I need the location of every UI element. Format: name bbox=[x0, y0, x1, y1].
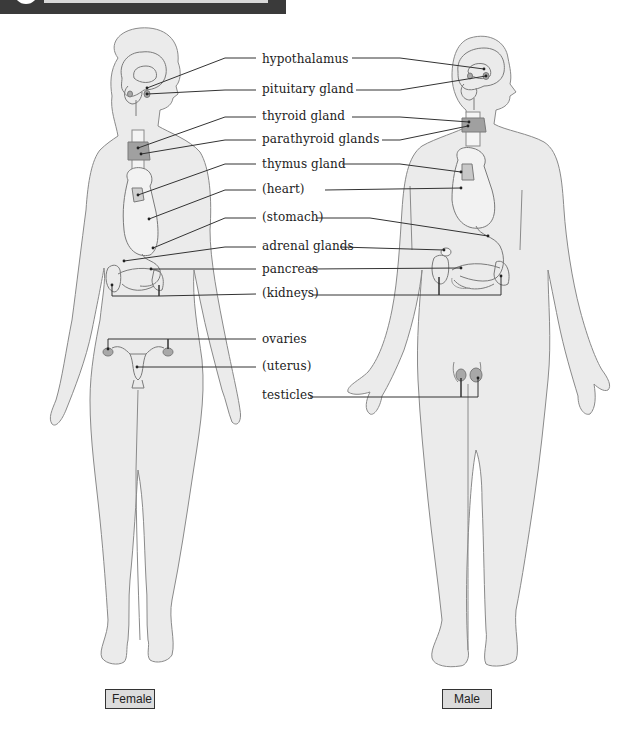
leader-dot bbox=[467, 125, 470, 128]
label-heart: (heart) bbox=[262, 182, 305, 196]
female-ovary-right bbox=[163, 348, 173, 356]
male-testicle-right bbox=[470, 368, 482, 382]
leader-dot bbox=[140, 153, 143, 156]
leader-dot bbox=[460, 187, 463, 190]
leader-male-thyroid bbox=[352, 117, 469, 122]
female-pineal-dot bbox=[128, 91, 133, 97]
leader-dot bbox=[146, 87, 149, 90]
leader-dot bbox=[483, 68, 486, 71]
label-stomach: (stomach) bbox=[262, 210, 323, 224]
leader-dot bbox=[443, 249, 446, 252]
male-adrenal bbox=[441, 248, 451, 256]
label-thyroid-gland: thyroid gland bbox=[262, 109, 345, 123]
male-thymus bbox=[462, 164, 474, 180]
leader-dot bbox=[485, 75, 488, 78]
leader-dot bbox=[152, 247, 155, 250]
male-figure bbox=[348, 36, 610, 666]
leader-dot bbox=[137, 194, 140, 197]
leader-dot bbox=[487, 235, 490, 238]
leader-dot bbox=[477, 377, 480, 380]
caption-female: Female bbox=[105, 689, 155, 709]
female-head bbox=[50, 28, 240, 664]
label-pituitary-gland: pituitary gland bbox=[262, 82, 354, 96]
leader-dot bbox=[123, 260, 126, 263]
label-thymus-gland: thymus gland bbox=[262, 157, 346, 171]
leader-dot bbox=[146, 93, 149, 96]
leader-dot bbox=[460, 171, 463, 174]
leader-dot bbox=[137, 147, 140, 150]
label-pancreas: pancreas bbox=[262, 262, 318, 276]
leader-dot bbox=[460, 267, 463, 270]
leader-dot bbox=[468, 121, 471, 124]
leader-dot bbox=[107, 348, 110, 351]
leader-dot bbox=[148, 218, 151, 221]
label-ovaries: ovaries bbox=[262, 332, 307, 346]
leader-dot bbox=[500, 275, 503, 278]
label-kidneys: (kidneys) bbox=[262, 286, 319, 300]
label-uterus: (uterus) bbox=[262, 359, 311, 373]
label-testicles: testicles bbox=[262, 388, 313, 402]
caption-male: Male bbox=[442, 689, 492, 709]
leader-dot bbox=[150, 268, 153, 271]
label-hypothalamus: hypothalamus bbox=[262, 52, 349, 66]
male-thyroid bbox=[462, 118, 486, 132]
female-figure bbox=[50, 28, 240, 664]
leader-dot bbox=[136, 366, 139, 369]
leader-dot bbox=[111, 284, 114, 287]
label-adrenal-glands: adrenal glands bbox=[262, 239, 354, 253]
label-parathyroid-glands: parathyroid glands bbox=[262, 132, 379, 146]
